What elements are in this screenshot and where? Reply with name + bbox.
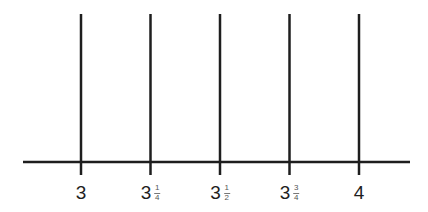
fraction-numerator: 1 xyxy=(155,184,159,192)
tick-label-whole: 3 xyxy=(141,183,152,203)
tick-label: 3 xyxy=(76,183,87,203)
tick-label: 4 xyxy=(354,183,365,203)
tick-label-fraction: 12 xyxy=(224,184,230,202)
tick-label-whole: 3 xyxy=(280,183,291,203)
tick-label-fraction: 14 xyxy=(154,184,160,202)
tick-label-whole: 4 xyxy=(354,183,365,203)
tick-label: 334 xyxy=(280,183,300,203)
fraction-numerator: 1 xyxy=(225,184,229,192)
tick-label-whole: 3 xyxy=(76,183,87,203)
tick-label: 312 xyxy=(210,183,230,203)
fraction-denominator: 4 xyxy=(294,194,298,202)
tick-label-whole: 3 xyxy=(210,183,221,203)
tick-label: 314 xyxy=(141,183,161,203)
fraction-denominator: 2 xyxy=(225,194,229,202)
fraction-numerator: 3 xyxy=(294,184,298,192)
number-line xyxy=(0,0,428,212)
fraction-denominator: 4 xyxy=(155,194,159,202)
tick-label-fraction: 34 xyxy=(293,184,299,202)
